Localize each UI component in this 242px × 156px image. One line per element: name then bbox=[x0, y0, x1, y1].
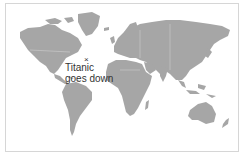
new-zealand bbox=[222, 118, 229, 128]
world-map bbox=[0, 0, 242, 156]
annotation-label-line1: Titanic bbox=[65, 62, 113, 73]
southeast-asia bbox=[178, 80, 216, 98]
annotation-label: Titanic goes down bbox=[65, 62, 113, 84]
madagascar bbox=[145, 100, 149, 110]
greenland bbox=[78, 12, 100, 36]
iceland bbox=[104, 27, 109, 31]
australia bbox=[188, 102, 216, 124]
british-isles bbox=[110, 36, 115, 44]
south-america bbox=[62, 82, 92, 136]
india bbox=[160, 66, 168, 82]
arctic-islands bbox=[45, 17, 74, 24]
annotation-label-line2: goes down bbox=[65, 73, 113, 84]
